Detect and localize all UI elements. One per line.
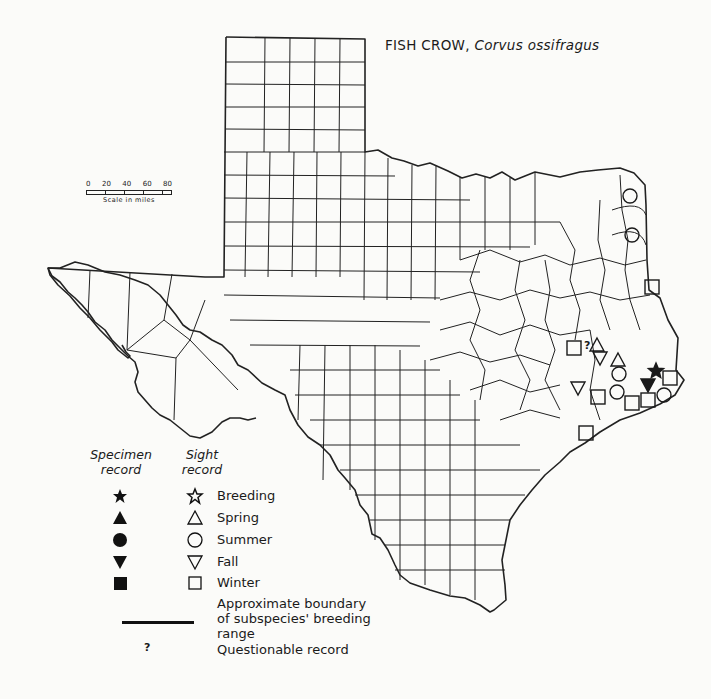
questionable-record-icon: ? [584, 339, 590, 352]
open-triangle-down-icon [186, 553, 204, 571]
filled-square-icon [111, 574, 129, 592]
scale-tick-20: 20 [102, 180, 111, 188]
open-circle-icon [186, 531, 204, 549]
texas-county-map: ? [0, 0, 711, 699]
scale-bar-graphic [86, 190, 172, 195]
scale-tick-80: 80 [163, 180, 172, 188]
sight-winter-record-icon [567, 341, 581, 355]
legend-label-winter: Winter [217, 575, 260, 590]
specimen-fall-record-icon [641, 379, 655, 392]
sight-header: Sight record [172, 447, 232, 477]
legend-label-summer: Summer [217, 532, 272, 547]
sight-summer-record-icon [657, 388, 671, 402]
legend-row-spring: Spring [80, 509, 410, 527]
sight-winter-record-icon [625, 396, 639, 410]
filled-triangle-up-icon [111, 509, 129, 527]
scale-tick-0: 0 [86, 180, 90, 188]
scale-caption: Scale in miles [86, 196, 172, 204]
legend-label-questionable: Questionable record [217, 642, 349, 657]
sight-fall-record-icon [571, 382, 585, 395]
sight-winter-record-icon [591, 390, 605, 404]
scale-bar: 0 20 40 60 80 Scale in miles [86, 180, 172, 204]
open-triangle-up-icon [186, 509, 204, 527]
sight-winter-record-icon [641, 393, 655, 407]
map-title: FISH CROW, Corvus ossifragus [385, 37, 599, 53]
specimen-breeding-record-icon [648, 363, 663, 378]
sight-summer-record-icon [612, 367, 626, 381]
scale-tick-60: 60 [143, 180, 152, 188]
question-mark-icon: ? [144, 641, 162, 659]
legend-row-summer: Summer [80, 531, 410, 549]
sight-winter-record-icon [663, 371, 677, 385]
title-scientific-name: Corvus ossifragus [474, 37, 599, 53]
legend-label-fall: Fall [217, 554, 238, 569]
legend-row-winter: Winter [80, 574, 410, 592]
open-star-icon [186, 487, 204, 505]
open-square-icon [186, 574, 204, 592]
legend-row-fall: Fall [80, 553, 410, 571]
legend-row-breeding: Breeding [80, 487, 410, 505]
legend-label-boundary: Approximate boundary of subspecies' bree… [217, 596, 410, 641]
sight-summer-record-icon [623, 189, 637, 203]
legend-label-breeding: Breeding [217, 488, 275, 503]
filled-triangle-down-icon [111, 553, 129, 571]
legend-label-spring: Spring [217, 510, 259, 525]
legend-row-questionable: ? Questionable record [80, 641, 410, 659]
filled-star-icon [111, 487, 129, 505]
filled-circle-icon [111, 531, 129, 549]
scale-tick-40: 40 [122, 180, 131, 188]
records-layer: ? [567, 189, 677, 440]
sight-spring-record-icon [611, 353, 625, 366]
specimen-header: Specimen record [80, 447, 162, 477]
legend-row-boundary: Approximate boundary of subspecies' bree… [80, 597, 410, 631]
title-common-name: FISH CROW, [385, 37, 470, 53]
sight-summer-record-icon [610, 385, 624, 399]
boundary-line-icon [122, 621, 194, 624]
